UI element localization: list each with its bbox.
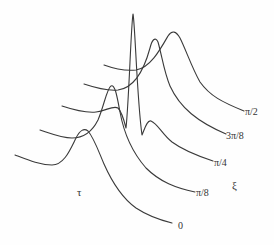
curve-3pi-8 — [84, 39, 226, 134]
curve-pi-8 — [40, 86, 195, 192]
plot-svg: 0 π/8 π/4 3π/8 π/2 τ ξ — [0, 0, 274, 245]
label-3pi-8: 3π/8 — [226, 130, 244, 141]
axis-label-tau: τ — [77, 186, 82, 198]
curve-pi-4 — [62, 14, 213, 161]
axis-label-xi: ξ — [232, 179, 237, 192]
label-pi-4: π/4 — [214, 157, 227, 168]
curve-0 — [15, 130, 172, 223]
label-0: 0 — [178, 220, 183, 231]
waterfall-plot: 0 π/8 π/4 3π/8 π/2 τ ξ — [0, 0, 274, 245]
label-pi-2: π/2 — [245, 106, 258, 117]
curve-pi-2 — [104, 32, 244, 111]
label-pi-8: π/8 — [196, 187, 209, 198]
